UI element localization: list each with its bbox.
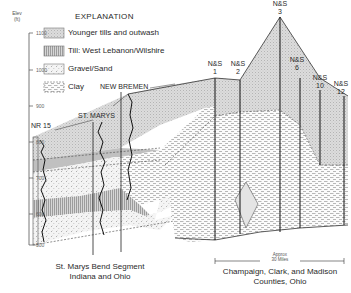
- well-label-new-bremen: NEW BREMEN: [100, 83, 148, 91]
- elevation-axis-title: Elev (ft): [6, 10, 28, 22]
- well-label-nr15: NR 15: [31, 122, 51, 130]
- east-caption: Champaign, Clark, and Madison Counties, …: [210, 267, 350, 287]
- well-ns6-line1: N&S: [287, 56, 307, 64]
- well-label-ns12: N&S 12: [331, 80, 351, 96]
- axis-title-line2: (ft): [6, 16, 28, 22]
- cross-section-diagram: [0, 0, 351, 293]
- well-ns2-line2: 2: [228, 68, 248, 76]
- well-label-ns3: N&S 3: [270, 0, 290, 16]
- tick-1100: 1100: [36, 30, 47, 36]
- east-caption-line2: Counties, Ohio: [210, 277, 350, 287]
- well-ns3-line2: 3: [270, 8, 290, 16]
- tick-700: 700: [36, 175, 44, 181]
- legend-clay: Clay: [68, 82, 84, 91]
- well-ns6-line2: 6: [287, 64, 307, 72]
- well-ns10-line1: N&S: [310, 74, 330, 82]
- explanation-title: EXPLANATION: [75, 12, 134, 21]
- well-ns10-line2: 10: [310, 82, 330, 90]
- well-ns1-line2: 1: [205, 68, 225, 76]
- scale-bar-label: Approx 30 Miles: [260, 252, 300, 262]
- well-label-st-marys: ST. MARYS: [78, 112, 115, 120]
- well-label-ns6: N&S 6: [287, 56, 307, 72]
- well-ns1-line1: N&S: [205, 60, 225, 68]
- tick-1000: 1000: [36, 67, 47, 73]
- well-label-ns2: N&S 2: [228, 60, 248, 76]
- tick-600: 600: [36, 211, 44, 217]
- tick-800: 800: [36, 139, 44, 145]
- tick-900: 900: [36, 103, 44, 109]
- well-label-ns1: N&S 1: [205, 60, 225, 76]
- east-caption-line1: Champaign, Clark, and Madison: [210, 267, 350, 277]
- well-ns12-line2: 12: [331, 88, 351, 96]
- well-ns2-line1: N&S: [228, 60, 248, 68]
- west-caption-line1: St. Marys Bend Segment: [20, 262, 180, 272]
- west-caption: St. Marys Bend Segment Indiana and Ohio: [20, 262, 180, 282]
- tick-500: 500: [36, 242, 44, 248]
- legend-gravel-sand: Gravel/Sand: [68, 64, 112, 73]
- west-caption-line2: Indiana and Ohio: [20, 272, 180, 282]
- legend-till-west-lebanon: Till: West Lebanon/Wilshire: [68, 46, 164, 55]
- well-ns12-line1: N&S: [331, 80, 351, 88]
- scale-line2: 30 Miles: [260, 257, 300, 262]
- legend-younger-tills: Younger tills and outwash: [68, 28, 159, 37]
- well-label-ns10: N&S 10: [310, 74, 330, 90]
- well-ns3-line1: N&S: [270, 0, 290, 8]
